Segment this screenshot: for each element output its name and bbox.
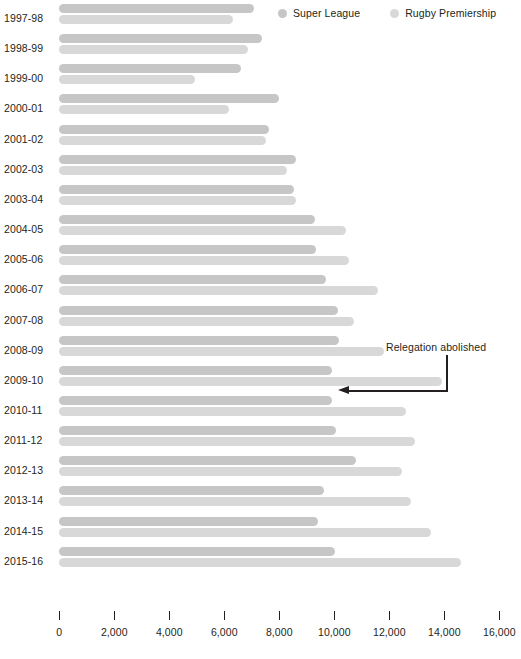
- x-axis-tick: [169, 611, 171, 620]
- x-axis-tick-label: 16,000: [483, 626, 516, 638]
- bar-rugby-premiership: [59, 528, 432, 537]
- bar-rugby-premiership: [59, 226, 346, 235]
- chart-row: 2011-12: [0, 425, 521, 455]
- bar-rugby-premiership: [59, 45, 248, 54]
- y-axis-tick-label: 1997-98: [4, 12, 52, 24]
- bar-super-league: [59, 306, 338, 315]
- y-axis-tick-label: 2002-03: [4, 163, 52, 175]
- chart-row: 2010-11: [0, 395, 521, 425]
- x-axis-tick-label: 6,000: [211, 626, 238, 638]
- chart-row: 2006-07: [0, 274, 521, 304]
- y-axis-tick-label: 2009-10: [4, 374, 52, 386]
- x-axis-tick-label: 14,000: [428, 626, 461, 638]
- bar-super-league: [59, 396, 333, 405]
- bar-super-league: [59, 34, 263, 43]
- x-axis-tick: [114, 611, 116, 620]
- x-axis-tick: [224, 611, 226, 620]
- bar-super-league: [59, 155, 297, 164]
- bar-rugby-premiership: [59, 317, 354, 326]
- x-axis-tick: [389, 611, 391, 620]
- bar-rugby-premiership: [59, 75, 196, 84]
- y-axis-tick-label: 1998-99: [4, 42, 52, 54]
- bar-super-league: [59, 185, 295, 194]
- bar-super-league: [59, 426, 337, 435]
- x-axis-tick-label: 8,000: [266, 626, 293, 638]
- chart-row: 2005-06: [0, 244, 521, 274]
- chart-row: 1997-98: [0, 3, 521, 33]
- bar-rugby-premiership: [59, 377, 442, 386]
- bar-rugby-premiership: [59, 105, 230, 114]
- bar-super-league: [59, 4, 254, 13]
- x-axis-tick: [334, 611, 336, 620]
- x-axis-tick: [279, 611, 281, 620]
- annotation-leader-horizontal: [348, 390, 447, 392]
- x-axis-tick-label: 12,000: [373, 626, 406, 638]
- bar-super-league: [59, 366, 333, 375]
- bar-rugby-premiership: [59, 196, 296, 205]
- bar-super-league: [59, 486, 325, 495]
- bar-rugby-premiership: [59, 437, 416, 446]
- y-axis-tick-label: 2013-14: [4, 494, 52, 506]
- bar-rugby-premiership: [59, 166, 288, 175]
- bar-super-league: [59, 245, 317, 254]
- chart-row: 2014-15: [0, 516, 521, 546]
- chart-row: 2007-08: [0, 305, 521, 335]
- y-axis-tick-label: 2011-12: [4, 434, 52, 446]
- bar-super-league: [59, 275, 326, 284]
- chart-row: 1998-99: [0, 33, 521, 63]
- annotation-label: Relegation abolished: [386, 341, 486, 353]
- bar-super-league: [59, 215, 315, 224]
- y-axis-tick-label: 2000-01: [4, 102, 52, 114]
- x-axis-tick-label: 0: [56, 626, 62, 638]
- chart-row: 2002-03: [0, 154, 521, 184]
- bar-rugby-premiership: [59, 558, 462, 567]
- bar-super-league: [59, 64, 241, 73]
- x-axis-tick-label: 10,000: [318, 626, 351, 638]
- chart-row: 2004-05: [0, 214, 521, 244]
- y-axis-tick-label: 2007-08: [4, 314, 52, 326]
- y-axis-tick-label: 2004-05: [4, 223, 52, 235]
- y-axis-tick-label: 1999-00: [4, 72, 52, 84]
- bar-super-league: [59, 456, 357, 465]
- bar-super-league: [59, 517, 318, 526]
- y-axis-tick-label: 2010-11: [4, 404, 52, 416]
- plot-area: 1997-981998-991999-002000-012001-022002-…: [0, 0, 521, 604]
- annotation-leader-vertical: [446, 355, 448, 392]
- x-axis-tick: [444, 611, 446, 620]
- y-axis-tick-label: 2015-16: [4, 555, 52, 567]
- chart-row: 2003-04: [0, 184, 521, 214]
- y-axis-tick-label: 2014-15: [4, 525, 52, 537]
- bar-super-league: [59, 336, 339, 345]
- chart-row: 2012-13: [0, 455, 521, 485]
- x-axis: 02,0004,0006,0008,00010,00012,00014,0001…: [0, 604, 521, 644]
- y-axis-tick-label: 2003-04: [4, 193, 52, 205]
- bar-super-league: [59, 547, 336, 556]
- annotation-arrowhead-icon: [338, 386, 349, 394]
- bar-rugby-premiership: [59, 136, 266, 145]
- bar-rugby-premiership: [59, 497, 412, 506]
- y-axis-tick-label: 2005-06: [4, 253, 52, 265]
- x-axis-tick-label: 4,000: [156, 626, 183, 638]
- chart-row: 2001-02: [0, 124, 521, 154]
- bar-rugby-premiership: [59, 407, 406, 416]
- x-axis-tick: [499, 611, 501, 620]
- bar-rugby-premiership: [59, 467, 403, 476]
- bar-super-league: [59, 94, 280, 103]
- bar-rugby-premiership: [59, 256, 350, 265]
- bar-rugby-premiership: [59, 286, 378, 295]
- bar-super-league: [59, 125, 269, 134]
- x-axis-tick: [59, 611, 61, 620]
- chart-row: 2015-16: [0, 546, 521, 576]
- chart-row: 2000-01: [0, 93, 521, 123]
- y-axis-tick-label: 2001-02: [4, 133, 52, 145]
- y-axis-tick-label: 2008-09: [4, 344, 52, 356]
- y-axis-tick-label: 2006-07: [4, 283, 52, 295]
- y-axis-tick-label: 2012-13: [4, 464, 52, 476]
- bar-rugby-premiership: [59, 347, 385, 356]
- chart-canvas: Super League Rugby Premiership 1997-9819…: [0, 0, 521, 659]
- chart-row: 2013-14: [0, 485, 521, 515]
- x-axis-tick-label: 2,000: [101, 626, 128, 638]
- bar-rugby-premiership: [59, 15, 234, 24]
- chart-row: 1999-00: [0, 63, 521, 93]
